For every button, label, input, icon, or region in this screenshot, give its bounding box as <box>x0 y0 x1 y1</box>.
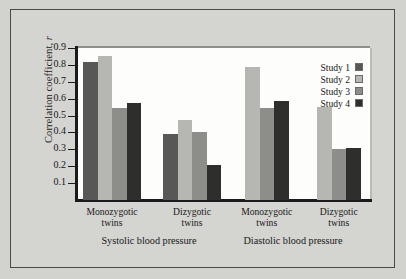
plot-top-border <box>77 46 370 48</box>
y-axis-tick-label: 0.6 <box>37 93 66 103</box>
bar <box>207 165 222 200</box>
bar <box>245 67 260 200</box>
bar <box>83 62 98 200</box>
group-label: Dizygotictwins <box>294 206 384 228</box>
panel-label: Systolic blood pressure <box>74 235 224 246</box>
legend-item: Study 1 <box>293 62 363 73</box>
y-axis-tick-label: 0.9 <box>37 42 66 52</box>
chart-legend: Study 1Study 2Study 3Study 4 <box>293 62 363 110</box>
legend-item-label: Study 2 <box>320 74 350 85</box>
bar <box>178 120 193 200</box>
group-label-line1: Monozygotic <box>67 206 157 217</box>
y-axis-tick <box>68 99 75 100</box>
panel-label: Diastolic blood pressure <box>218 235 368 246</box>
legend-item: Study 3 <box>293 86 363 97</box>
legend-item-label: Study 4 <box>320 98 350 109</box>
bar <box>346 148 361 200</box>
bar <box>98 56 113 200</box>
figure-frame: Correlation coefficient, r 0.90.80.70.60… <box>10 9 395 268</box>
legend-item-label: Study 3 <box>320 86 350 97</box>
y-axis-tick <box>68 132 75 133</box>
y-axis-tick-label: 0.2 <box>37 160 66 170</box>
bar <box>163 134 178 200</box>
y-axis-tick <box>68 65 75 66</box>
bar <box>317 107 332 200</box>
y-axis-tick-label: 0.3 <box>37 143 66 153</box>
legend-item: Study 2 <box>293 74 363 85</box>
legend-item: Study 4 <box>293 98 363 109</box>
group-label-line2: twins <box>67 217 157 228</box>
bar <box>127 103 142 200</box>
y-axis-tick-label: 0.1 <box>37 177 66 187</box>
legend-item-label: Study 1 <box>320 62 350 73</box>
y-axis-tick <box>68 183 75 184</box>
y-axis-tick-label: 0.4 <box>37 126 66 136</box>
bar <box>332 149 347 200</box>
group-label-line2: twins <box>294 217 384 228</box>
legend-swatch <box>355 99 363 107</box>
bar <box>112 108 127 200</box>
legend-swatch <box>355 75 363 83</box>
group-label-line1: Dizygotic <box>294 206 384 217</box>
y-axis-tick-label: 0.7 <box>37 76 66 86</box>
y-axis-title-symbol: r <box>43 36 54 40</box>
bar <box>192 132 207 200</box>
y-axis-title: Correlation coefficient, r <box>43 15 54 165</box>
group-label: Monozygotictwins <box>67 206 157 228</box>
y-axis-tick <box>68 48 75 49</box>
bar-chart-figure: Correlation coefficient, r 0.90.80.70.60… <box>11 10 394 267</box>
y-axis-tick <box>68 166 75 167</box>
bar <box>274 101 289 200</box>
legend-swatch <box>355 87 363 95</box>
bar <box>260 108 275 200</box>
page-background: Correlation coefficient, r 0.90.80.70.60… <box>0 0 406 279</box>
y-axis-tick <box>68 116 75 117</box>
legend-swatch <box>355 63 363 71</box>
y-axis-tick-label: 0.8 <box>37 59 66 69</box>
y-axis-tick <box>68 149 75 150</box>
y-axis-tick-label: 0.5 <box>37 110 66 120</box>
y-axis-tick <box>68 82 75 83</box>
y-axis-line <box>75 46 78 202</box>
